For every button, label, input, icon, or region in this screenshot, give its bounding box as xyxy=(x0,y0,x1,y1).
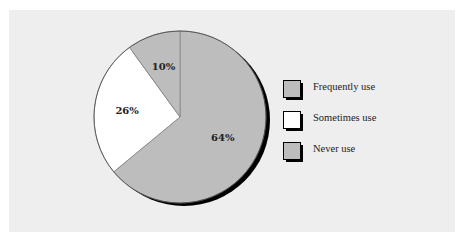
legend-label: Never use xyxy=(313,143,355,154)
legend-label: Sometimes use xyxy=(313,112,376,123)
legend-swatch-never xyxy=(283,142,304,163)
legend-swatch-frequently xyxy=(283,80,304,101)
legend-swatch-sometimes xyxy=(283,111,304,132)
legend: Frequently use Sometimes use Never use xyxy=(283,80,376,173)
legend-item-never: Never use xyxy=(283,142,376,173)
legend-item-frequently: Frequently use xyxy=(283,80,376,111)
legend-item-sometimes: Sometimes use xyxy=(283,111,376,142)
pie-chart: 64%26%10% xyxy=(0,0,465,240)
legend-label: Frequently use xyxy=(313,81,375,92)
slice-percent-label: 26% xyxy=(115,105,139,116)
slice-percent-label: 64% xyxy=(211,132,235,143)
slice-percent-label: 10% xyxy=(152,61,176,72)
